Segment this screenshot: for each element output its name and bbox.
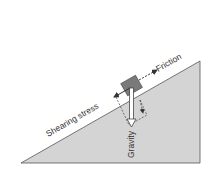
slope-force-diagram: Friction Shearing stress Gravity <box>0 0 214 173</box>
friction-label: Friction <box>154 51 183 74</box>
diagram-canvas: Friction Shearing stress Gravity <box>0 0 214 173</box>
friction-arrow <box>139 70 157 80</box>
slope <box>21 61 200 163</box>
gravity-label: Gravity <box>126 130 136 158</box>
